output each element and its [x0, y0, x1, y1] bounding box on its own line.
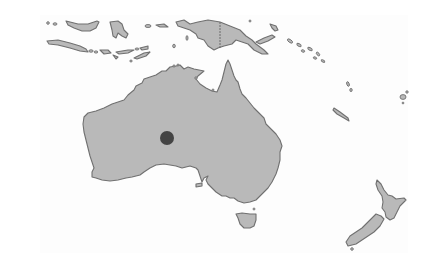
new-guinea — [176, 20, 278, 54]
vanuatu — [346, 81, 352, 91]
location-marker — [160, 131, 174, 145]
tasmania — [236, 213, 256, 228]
java-lesser-sunda — [47, 40, 150, 62]
kangaroo-island — [196, 183, 202, 187]
stewart-island — [351, 248, 354, 251]
sulawesi — [110, 21, 128, 38]
new-zealand-north-island — [376, 180, 406, 220]
australia — [83, 60, 282, 203]
new-caledonia — [333, 108, 349, 121]
indonesia-north — [47, 21, 99, 31]
new-zealand-south-island — [346, 214, 384, 246]
fiji — [400, 91, 408, 104]
solomon-islands — [287, 38, 325, 63]
oceania-map — [0, 0, 430, 270]
